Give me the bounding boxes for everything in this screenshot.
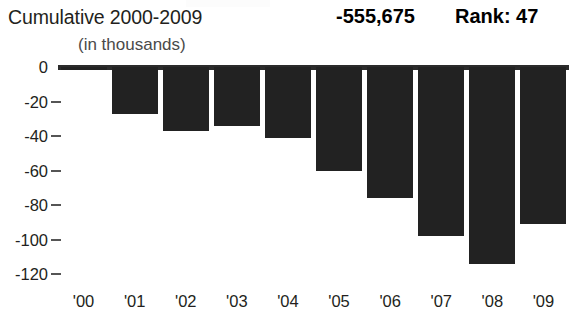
x-axis-tick-label: '05 xyxy=(328,292,350,311)
x-axis-tick-label: '06 xyxy=(379,292,401,311)
y-axis-tick-mark xyxy=(51,273,61,275)
y-axis-tick-mark xyxy=(51,101,61,103)
y-axis-tick-mark xyxy=(51,135,61,137)
x-axis-tick-label: '04 xyxy=(277,292,299,311)
bar-05 xyxy=(316,67,362,171)
x-axis-tick-label: '03 xyxy=(226,292,248,311)
bar-06 xyxy=(367,67,413,198)
bar-08 xyxy=(469,67,515,264)
bar-03 xyxy=(214,67,260,126)
y-axis-tick-text: -60 xyxy=(0,161,48,180)
x-axis-tick-label: '08 xyxy=(482,292,504,311)
x-axis-tick-label: '02 xyxy=(175,292,197,311)
bar-09 xyxy=(520,67,566,224)
y-axis-tick-text: -100 xyxy=(0,230,48,249)
bar-04 xyxy=(265,67,311,138)
bar-07 xyxy=(418,67,464,236)
y-axis-tick-text: -40 xyxy=(0,127,48,146)
y-axis-tick-text: -80 xyxy=(0,196,48,215)
plot-area: 0-20-40-60-80-100-120'00'01'02'03'04'05'… xyxy=(0,0,569,325)
bar-02 xyxy=(163,67,209,131)
y-axis-tick-text: -20 xyxy=(0,92,48,111)
chart-figure: Cumulative 2000-2009 -555,675 Rank: 47 (… xyxy=(0,0,569,325)
bar-01 xyxy=(112,67,158,114)
x-axis-tick-label: '00 xyxy=(73,292,95,311)
x-axis-tick-label: '07 xyxy=(430,292,452,311)
y-axis-tick-mark xyxy=(51,204,61,206)
y-axis-tick-text: 0 xyxy=(0,58,48,77)
bar-00 xyxy=(61,67,107,70)
y-axis-tick-mark xyxy=(51,239,61,241)
x-axis-tick-label: '09 xyxy=(533,292,555,311)
y-axis-tick-text: -120 xyxy=(0,265,48,284)
x-axis-tick-label: '01 xyxy=(124,292,146,311)
y-axis-tick-mark xyxy=(51,170,61,172)
